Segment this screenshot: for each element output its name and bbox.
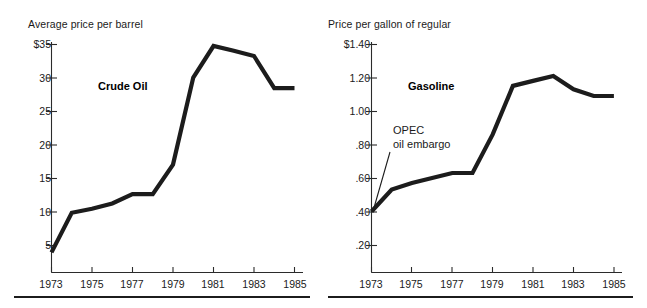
chart-panel-gasoline: Price per gallon of regular Gasoline OPE… — [322, 0, 647, 308]
bottom-rule-right — [328, 296, 633, 298]
x-ticks-gasoline — [372, 267, 615, 273]
chart-panel-crude-oil: Average price per barrel Crude Oil $35 3… — [0, 0, 325, 308]
plot-area-gasoline — [322, 0, 647, 308]
plot-area-crude-oil — [0, 0, 325, 308]
x-ticks-crude-oil — [52, 267, 295, 273]
data-line-gasoline — [372, 76, 614, 212]
figure-two-panel-oil-gasoline-prices: Average price per barrel Crude Oil $35 3… — [0, 0, 647, 308]
bottom-rule-left — [14, 296, 310, 298]
data-line-crude-oil — [52, 46, 295, 252]
